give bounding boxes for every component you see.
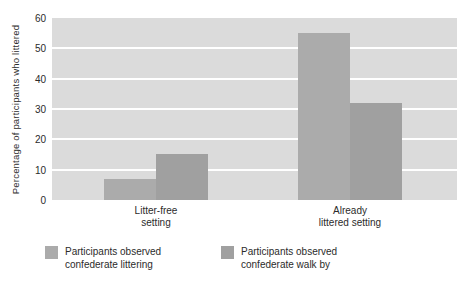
legend-item-2: Participants observed confederate walk b… [221, 246, 376, 271]
bar-group2-series1 [298, 33, 350, 200]
x-category-label-1: Litter-free setting [76, 205, 236, 229]
y-tick-label-40: 40 [16, 74, 46, 85]
y-tick-label-10: 10 [16, 165, 46, 176]
bar-group2-series2 [350, 103, 402, 200]
y-tick-label-20: 20 [16, 134, 46, 145]
y-tick-label-50: 50 [16, 43, 46, 54]
bar-group1-series2 [156, 154, 208, 200]
gridline-40 [52, 78, 457, 80]
legend-label-2: Participants observed confederate walk b… [241, 246, 376, 271]
legend-label-1: Participants observed confederate litter… [65, 246, 200, 271]
bar-chart-figure: Percentage of participants who littered … [0, 0, 462, 285]
y-tick-label-60: 60 [16, 13, 46, 24]
legend-swatch-1 [45, 246, 58, 259]
legend-item-1: Participants observed confederate litter… [45, 246, 200, 271]
bar-group1-series1 [104, 179, 156, 200]
gridline-50 [52, 47, 457, 49]
x-category-label-2: Already littered setting [270, 205, 430, 229]
plot-area [52, 18, 457, 200]
legend-swatch-2 [221, 246, 234, 259]
y-tick-label-30: 30 [16, 104, 46, 115]
y-tick-label-0: 0 [16, 195, 46, 206]
